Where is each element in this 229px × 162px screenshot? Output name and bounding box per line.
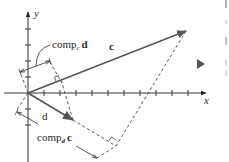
- comp-c-d-vector: d: [82, 38, 88, 50]
- comp-d-c-main: comp: [37, 131, 62, 143]
- right-edge-artifacts: [197, 0, 226, 76]
- comp-c-d-main: comp: [52, 38, 77, 50]
- comp-c-d-bracket: [19, 45, 51, 75]
- y-axis-label: y: [33, 7, 39, 19]
- right-angle-marker-on-d: [109, 137, 117, 142]
- vector-projection-diagram: x y c d: [0, 0, 229, 162]
- right-angle-markers: [55, 76, 116, 142]
- bullet-triangle-icon: [197, 59, 205, 69]
- vector-c-label: c: [109, 40, 114, 52]
- x-axis-label: x: [203, 94, 209, 106]
- comp-c-d-label: compcd: [52, 38, 88, 52]
- comp-c-d-subscript: c: [76, 44, 79, 52]
- x-axis: x: [4, 90, 209, 106]
- comp-d-c-subscript: d: [61, 137, 65, 145]
- comp-d-c-label: compdc: [37, 131, 72, 145]
- vector-d-label: d: [42, 110, 48, 122]
- comp-d-c-vector: c: [67, 131, 72, 143]
